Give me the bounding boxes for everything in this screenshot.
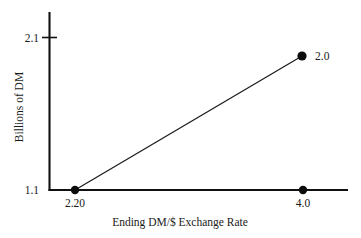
data-point-marker-lower-left[interactable] bbox=[71, 186, 79, 194]
data-point-annotation-upper: 2.0 bbox=[315, 50, 330, 62]
y-tick-label-bottom: 1.1 bbox=[25, 184, 40, 196]
series-line-dm-exposure bbox=[75, 56, 302, 190]
line-chart-plot: 2.1 1.1 2.20 4.0 2.0 Ending DM/$ Exchang… bbox=[0, 0, 361, 238]
data-point-marker-baseline-right[interactable] bbox=[299, 186, 307, 194]
x-axis-title: Ending DM/$ Exchange Rate bbox=[112, 216, 248, 229]
y-axis-title: Billions of DM bbox=[13, 72, 25, 142]
y-tick-label-top: 2.1 bbox=[25, 32, 40, 44]
data-point-marker-upper-right[interactable] bbox=[297, 51, 306, 60]
x-tick-label-left: 2.20 bbox=[65, 197, 85, 209]
x-tick-label-right: 4.0 bbox=[296, 197, 311, 209]
chart-container: 2.1 1.1 2.20 4.0 2.0 Ending DM/$ Exchang… bbox=[0, 0, 361, 238]
